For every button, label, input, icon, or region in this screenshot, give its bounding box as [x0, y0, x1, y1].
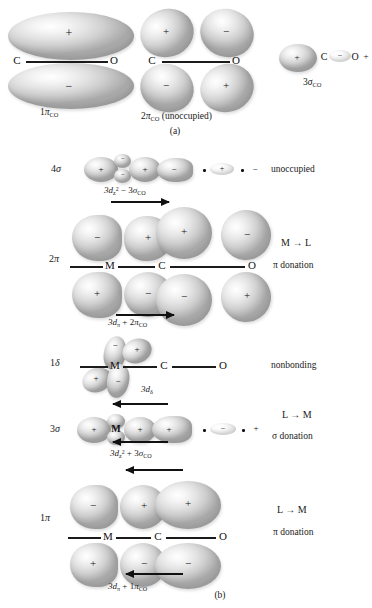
atom-c-2pi-b: C: [155, 260, 169, 271]
sign-4sigma-2: −: [117, 156, 129, 163]
bond-1delta-left: [80, 366, 108, 368]
atom-o-1delta: O: [216, 360, 230, 371]
sign-2pi-c2-top: +: [177, 226, 191, 237]
sign-1pi-c-top: +: [137, 500, 151, 511]
combination-4sigma: 3dz2 − 3σCO: [104, 186, 146, 196]
sign-1pi-m-top: −: [86, 500, 100, 511]
sign-4sigma-6: +: [216, 165, 228, 173]
sign-4sigma-7: −: [249, 165, 261, 174]
dot-3sigma-2: [242, 429, 245, 432]
atom-c-1pi: C: [10, 55, 24, 66]
sign-1delta-bl: +: [90, 374, 102, 383]
mo-label-3sigma: 3σ: [50, 424, 60, 434]
bond-2pi-mc: [118, 266, 155, 268]
bond-co-1pi: [26, 61, 108, 63]
bond-1pi-co: [166, 537, 216, 539]
combination-1delta: 3dδ: [141, 385, 153, 395]
bond-co-2pi: [162, 61, 230, 63]
dot-3sigma-1: [203, 429, 206, 432]
atom-c-1pi-b: C: [151, 531, 165, 542]
sign-2pi-c2-bottom: −: [177, 291, 191, 302]
sign-1pi-m-bottom: +: [86, 558, 100, 569]
label-2pi-co: 2πCO (unoccupied): [141, 112, 212, 122]
caption-panel-a: (a): [155, 126, 195, 136]
caption-panel-b: (b): [200, 590, 240, 600]
atom-c-1delta: C: [157, 360, 171, 371]
atom-c-3sigma: C: [318, 52, 330, 62]
dot-4sigma-1: [203, 169, 206, 172]
atom-m-1delta: M: [108, 360, 122, 371]
right-label-3sigma: L → M: [282, 410, 312, 420]
sign-3sigma-2: −: [334, 52, 346, 60]
arrow-3sigma-top: [113, 399, 168, 408]
atom-m-2pi: M: [103, 260, 117, 271]
sign-2pi-br: +: [219, 80, 233, 91]
atom-o-2pi-b: O: [245, 260, 259, 271]
label-3sigma-co: 3σCO: [303, 78, 321, 88]
right-label-2pi: M → L: [281, 238, 311, 248]
sign-2pi-o-bottom: +: [240, 290, 254, 301]
atom-c-2pi: C: [145, 55, 159, 66]
sign-4sigma-5: −: [168, 165, 180, 174]
sign-2pi-o-top: −: [240, 229, 254, 240]
sign-3sigma-b2: +: [134, 425, 146, 434]
bond-1pi-left: [68, 537, 101, 539]
atom-o-3sigma: O: [349, 52, 361, 62]
atom-o-1pi: O: [107, 55, 121, 66]
sign-1pi-c-bottom: −: [137, 558, 151, 569]
sign-3sigma-b3: +: [163, 425, 175, 434]
sign-3sigma-1: +: [291, 53, 303, 62]
mo-label-1pi: 1π: [40, 513, 50, 523]
bond-2pi-co: [170, 266, 245, 268]
sign-1delta-tl: −: [109, 341, 121, 350]
atom-o-2pi: O: [229, 55, 243, 66]
right-label-4sigma: unoccupied: [271, 165, 315, 175]
sign-4sigma-4: +: [139, 165, 151, 174]
sign-2pi-tr: −: [219, 26, 233, 37]
arrow-1pi-top: [126, 465, 183, 474]
arrow-3sigma-mid: [113, 437, 168, 446]
sign-1delta-br: −: [112, 377, 124, 386]
sign-2pi-tl: +: [159, 26, 173, 37]
sign-4sigma-3: −: [117, 172, 129, 179]
mo-label-2pi: 2π: [49, 254, 59, 264]
sign-1pi-top: +: [62, 27, 76, 39]
arrow-1pi-bottom: [126, 569, 183, 578]
sign-2pi-m-top: −: [90, 232, 104, 243]
sign-2pi-c1-top: +: [141, 232, 155, 243]
bond-1pi-mc: [116, 537, 151, 539]
arrow-2pi: [116, 310, 174, 319]
bond-1delta-mc: [123, 366, 157, 368]
mo-label-4sigma: 4σ: [51, 164, 61, 174]
bond-2pi-left: [70, 266, 103, 268]
sign-2pi-bl: −: [159, 80, 173, 91]
sign-1pi-bottom: −: [62, 80, 76, 92]
sign-3sigma-b4: −: [217, 425, 229, 433]
sign-3sigma-3: +: [360, 52, 372, 61]
sign-1pi-o-bottom: −: [181, 558, 195, 569]
combination-2pi: 3dπ + 2πCO: [108, 318, 147, 328]
right-label-1pi: L → M: [277, 505, 307, 515]
figure-root: + C O − 1πCO + − C O − + 2πCO (unoccupie…: [0, 0, 372, 608]
combination-1pi: 3dπ + 1πCO: [108, 582, 147, 592]
mo-label-1delta: 1δ: [50, 358, 60, 368]
right-label2-2pi: π donation: [273, 261, 313, 271]
atom-o-1pi-b: O: [216, 531, 230, 542]
combination-3sigma: 3dz2 + 3σCO: [110, 449, 152, 459]
sign-3sigma-b5: +: [250, 424, 262, 433]
right-label2-1pi: π donation: [273, 528, 313, 538]
sign-1pi-o-top: +: [181, 498, 195, 509]
arrow-4sigma: [111, 197, 169, 206]
right-label2-3sigma: σ donation: [272, 432, 313, 442]
sign-2pi-c1-bottom: −: [141, 288, 155, 299]
atom-m-3sigma: M: [109, 424, 123, 434]
sign-2pi-m-bottom: +: [90, 288, 104, 299]
sign-4sigma-1: +: [95, 165, 107, 174]
dot-4sigma-2: [241, 169, 244, 172]
bond-1delta-co: [172, 366, 216, 368]
sign-1delta-tr: +: [131, 345, 143, 354]
right-label-1delta: nonbonding: [271, 361, 316, 371]
label-1pi-co: 1πCO: [40, 108, 58, 118]
atom-m-1pi: M: [101, 531, 115, 542]
sign-3sigma-b1: +: [88, 425, 100, 434]
